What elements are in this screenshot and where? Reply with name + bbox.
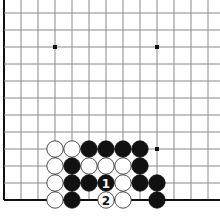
star-point (155, 147, 159, 151)
move-number-label: 1 (102, 177, 110, 191)
white-stone (115, 192, 131, 208)
white-stone (47, 175, 63, 191)
star-point (155, 45, 159, 49)
black-stone (149, 175, 165, 191)
star-point (53, 45, 57, 49)
black-stone: 1 (98, 175, 114, 191)
black-stone (98, 141, 114, 157)
white-stone (115, 175, 131, 191)
black-stone (64, 175, 80, 191)
white-stone (81, 158, 97, 174)
go-board[interactable]: 12 (0, 0, 220, 218)
white-stone (47, 192, 63, 208)
black-stone (81, 175, 97, 191)
white-stone (64, 141, 80, 157)
move-number-label: 2 (102, 194, 110, 208)
black-stone (64, 158, 80, 174)
white-stone (115, 158, 131, 174)
white-stone (47, 158, 63, 174)
black-stone (149, 192, 165, 208)
white-stone (98, 158, 114, 174)
white-stone (47, 141, 63, 157)
black-stone (64, 192, 80, 208)
black-stone (115, 141, 131, 157)
black-stone (132, 141, 148, 157)
black-stone (132, 175, 148, 191)
white-stone: 2 (98, 192, 114, 208)
black-stone (81, 141, 97, 157)
stones-layer: 12 (47, 141, 165, 208)
black-stone (132, 158, 148, 174)
